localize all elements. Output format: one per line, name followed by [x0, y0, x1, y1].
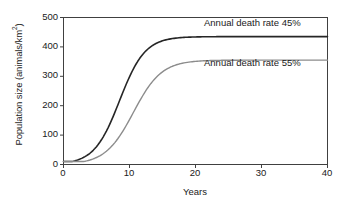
- y-tick-label-300: 300: [28, 70, 58, 80]
- x-tick-label-20: 20: [180, 168, 210, 178]
- annotation-death-rate-45: Annual death rate 45%: [204, 17, 301, 28]
- y-tick-label-200: 200: [28, 100, 58, 110]
- annotation-death-rate-55: Annual death rate 55%: [204, 57, 301, 68]
- y-axis-label-superscript: 2: [11, 27, 18, 31]
- y-axis-label-tail: ): [13, 23, 24, 26]
- y-tick-label-400: 400: [28, 41, 58, 51]
- chart-figure: Population size (animals/km2) 500 400 30…: [0, 0, 343, 208]
- axes-spines: [64, 18, 328, 165]
- x-tick-label-10: 10: [114, 168, 144, 178]
- y-tick-label-100: 100: [28, 129, 58, 139]
- series-line-1: [64, 37, 328, 162]
- x-tick-label-40: 40: [312, 168, 342, 178]
- axes-frame: [64, 18, 328, 165]
- x-tick-label-30: 30: [246, 168, 276, 178]
- y-tick-label-500: 500: [28, 12, 58, 22]
- x-tick-label-0: 0: [48, 168, 78, 178]
- x-axis-label: Years: [63, 186, 327, 197]
- y-axis-label: Population size (animals/km2): [13, 5, 24, 165]
- data-series-layer: [64, 37, 328, 162]
- y-axis-label-text: Population size (animals/km: [13, 30, 24, 146]
- series-line-2: [64, 60, 328, 161]
- y-axis-tick-marks: [60, 18, 64, 165]
